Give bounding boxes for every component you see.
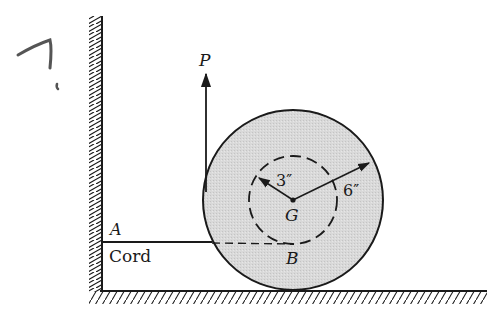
floor [89,291,487,304]
point-label-b: B [285,248,299,268]
spool-diagram: P A Cord B G 3″ 6″ [0,0,501,324]
force-label-p: P [198,50,211,70]
inner-radius-label: 3″ [276,171,292,190]
wall [89,16,102,292]
handwritten-problem-number [18,40,58,89]
center-label-g: G [285,205,299,225]
cord-label: Cord [109,246,151,266]
point-label-a: A [108,220,122,239]
center-point-g [290,197,295,202]
outer-radius-label: 6″ [343,181,359,200]
